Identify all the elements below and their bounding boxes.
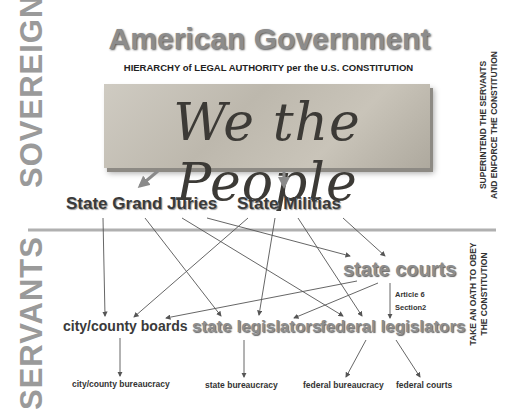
node-state-militias: State Militias: [237, 194, 341, 214]
article-reference: Article 6 Section2: [395, 288, 426, 314]
node-federal-bureaucracy: federal bureaucracy: [303, 380, 384, 390]
article-line: Article 6: [395, 288, 426, 301]
node-city-county-boards: city/county boards: [63, 318, 187, 334]
sovereign-duty-label: SUPERINTEND THE SERVANTS AND ENFORCE THE…: [478, 25, 500, 225]
node-city-county-bureaucracy: city/county bureaucracy: [72, 379, 170, 389]
servants-duty-line1: TAKE AN OATH TO OBEY: [468, 238, 479, 350]
sovereign-duty-line1: SUPERINTEND THE SERVANTS: [478, 25, 489, 225]
node-federal-legislators: federal legislators: [320, 317, 466, 337]
node-state-grand-juries: State Grand Juries: [66, 194, 217, 214]
section-line: Section2: [395, 301, 426, 314]
servants-duty-line2: THE CONSTITUTION: [479, 238, 490, 350]
node-state-bureaucracy: state bureaucracy: [205, 380, 278, 390]
node-state-legislators: state legislators: [192, 317, 321, 337]
servants-duty-label: TAKE AN OATH TO OBEY THE CONSTITUTION: [468, 238, 490, 350]
sovereign-duty-line2: AND ENFORCE THE CONSTITUTION: [489, 25, 500, 225]
node-federal-courts: federal courts: [396, 380, 452, 390]
node-state-courts: state courts: [343, 258, 456, 281]
